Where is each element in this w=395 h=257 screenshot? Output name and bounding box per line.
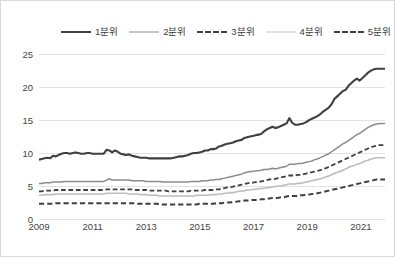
x-tick-label-2017: 2017 xyxy=(243,221,264,232)
legend-item-2[interactable]: 2분위 xyxy=(129,27,186,37)
legend-item-3[interactable]: 3분위 xyxy=(197,27,254,37)
y-tick-label-20: 20 xyxy=(22,82,33,93)
series-line-1 xyxy=(39,69,385,160)
series-line-5 xyxy=(39,179,385,204)
legend-item-5[interactable]: 5분위 xyxy=(334,27,391,37)
legend-label-series-3: 3분위 xyxy=(231,27,254,37)
chart-figure: 1분위 2분위 3분위 4분위 5분위 0510152025 200920112… xyxy=(0,0,395,257)
legend-swatch-series-3 xyxy=(197,28,227,36)
chart-legend: 1분위 2분위 3분위 4분위 5분위 xyxy=(61,23,391,41)
x-tick-label-2009: 2009 xyxy=(28,221,49,232)
legend-label-series-2: 2분위 xyxy=(163,27,186,37)
legend-swatch-series-1 xyxy=(61,28,91,36)
legend-swatch-series-4 xyxy=(266,28,296,36)
legend-label-series-5: 5분위 xyxy=(368,27,391,37)
x-tick-label-2015: 2015 xyxy=(189,221,210,232)
y-tick-label-5: 5 xyxy=(28,181,33,192)
x-axis-labels: 2009201120132015201720192021 xyxy=(39,221,385,239)
series-lines xyxy=(39,41,385,219)
y-tick-label-25: 25 xyxy=(22,49,33,60)
y-tick-label-10: 10 xyxy=(22,148,33,159)
x-tick-label-2013: 2013 xyxy=(136,221,157,232)
gridline-0 xyxy=(39,219,385,220)
legend-swatch-series-2 xyxy=(129,28,159,36)
y-axis-labels: 0510152025 xyxy=(1,41,37,219)
legend-label-series-1: 1분위 xyxy=(95,27,118,37)
x-tick-label-2019: 2019 xyxy=(297,221,318,232)
legend-item-4[interactable]: 4분위 xyxy=(266,27,323,37)
legend-label-series-4: 4분위 xyxy=(300,27,323,37)
series-line-3 xyxy=(39,145,385,191)
y-tick-label-15: 15 xyxy=(22,115,33,126)
plot-area xyxy=(39,41,385,219)
x-tick-label-2011: 2011 xyxy=(82,221,102,232)
legend-swatch-series-5 xyxy=(334,28,364,36)
x-tick-label-2021: 2021 xyxy=(350,221,371,232)
legend-item-1[interactable]: 1분위 xyxy=(61,27,118,37)
